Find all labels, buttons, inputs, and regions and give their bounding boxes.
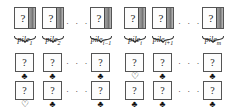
pile-thickness-edge — [166, 8, 173, 28]
card-row-upper-cell-3: ?♣ — [91, 53, 113, 81]
pile-6: ?pilem — [202, 7, 228, 29]
card-row-upper-cell-1: ?♣ — [15, 53, 37, 81]
question-mark-glyph: ? — [92, 82, 109, 99]
pile-row-ellipsis: · · · — [66, 18, 90, 28]
pile-label-base: pile — [91, 35, 103, 44]
question-mark-glyph: ? — [204, 82, 221, 99]
card-row-upper-cell-6: ?♣ — [203, 53, 225, 81]
card-row-lower-cell-3: ?♣ — [91, 81, 113, 109]
club-suit-icon: ♣ — [203, 100, 222, 109]
club-suit-icon: ♣ — [153, 72, 172, 81]
pile-label-base: pile — [128, 35, 140, 44]
card-row-upper-cell-5: ?♣ — [153, 53, 175, 81]
question-mark-glyph: ? — [204, 54, 221, 71]
pile-5: ?pilei+1 — [152, 7, 178, 29]
face-down-card: ? — [203, 53, 222, 72]
question-mark-glyph: ? — [44, 54, 61, 71]
club-suit-icon: ♣ — [203, 72, 222, 81]
question-mark-glyph: ? — [16, 54, 33, 71]
diagram-canvas: ?pile1?pile2?pilei−1?pilei?pilei+1?pilem… — [0, 0, 246, 109]
pile-stack: ? — [90, 7, 112, 29]
face-down-card: ? — [125, 53, 144, 72]
question-mark-glyph: ? — [44, 82, 61, 99]
card-row-lower-ellipsis: · · · — [178, 86, 202, 96]
pile-label-base: pile — [205, 35, 217, 44]
heart-suit-icon: ♡ — [15, 100, 34, 109]
pile-thickness-edge — [138, 8, 145, 28]
face-down-card: ? — [153, 81, 172, 100]
pile-label-base: pile — [153, 35, 165, 44]
card-row-lower-cell-2: ?♣ — [43, 81, 65, 109]
question-mark-glyph: ? — [16, 82, 33, 99]
card-row-upper-cell-4: ?♡ — [125, 53, 147, 81]
pile-thickness-edge — [216, 8, 223, 28]
club-suit-icon: ♣ — [153, 100, 172, 109]
card-row-lower-ellipsis: · · · — [66, 86, 90, 96]
card-row-lower-cell-4: ?♣ — [125, 81, 147, 109]
face-down-card: ? — [125, 81, 144, 100]
face-down-card: ? — [43, 81, 62, 100]
pile-stack: ? — [124, 7, 146, 29]
face-down-card: ? — [91, 53, 110, 72]
pile-stack: ? — [42, 7, 64, 29]
pile-label: pilei−1 — [83, 35, 119, 46]
pile-label-subscript: m — [217, 40, 221, 46]
pile-label-base: pile — [18, 35, 30, 44]
pile-label-subscript: 1 — [30, 40, 33, 46]
club-suit-icon: ♣ — [43, 72, 62, 81]
pile-stack: ? — [152, 7, 174, 29]
face-down-card: ? — [43, 53, 62, 72]
heart-suit-icon: ♡ — [125, 72, 144, 81]
pile-label-base: pile — [46, 35, 58, 44]
face-down-card: ? — [91, 81, 110, 100]
pile-label: pilem — [195, 35, 231, 46]
club-suit-icon: ♣ — [91, 72, 110, 81]
pile-label-subscript: i−1 — [103, 40, 112, 46]
card-row-lower-cell-6: ?♣ — [203, 81, 225, 109]
pile-thickness-edge — [104, 8, 111, 28]
pile-label: pile2 — [35, 35, 71, 46]
card-row-lower-cell-5: ?♣ — [153, 81, 175, 109]
pile-2: ?pile2 — [42, 7, 68, 29]
card-row-upper-cell-2: ?♣ — [43, 53, 65, 81]
pile-1: ?pile1 — [14, 7, 40, 29]
pile-label-subscript: i+1 — [165, 40, 174, 46]
question-mark-glyph: ? — [92, 54, 109, 71]
face-down-card: ? — [153, 53, 172, 72]
card-row-lower-cell-1: ?♡ — [15, 81, 37, 109]
club-suit-icon: ♣ — [15, 72, 34, 81]
question-mark-glyph: ? — [154, 54, 171, 71]
face-down-card: ? — [15, 53, 34, 72]
face-down-card: ? — [15, 81, 34, 100]
pile-4: ?pilei — [124, 7, 150, 29]
card-row-upper-ellipsis: · · · — [178, 58, 202, 68]
pile-label-subscript: 2 — [58, 40, 61, 46]
pile-thickness-edge — [56, 8, 63, 28]
pile-stack: ? — [14, 7, 36, 29]
question-mark-glyph: ? — [126, 54, 143, 71]
card-row-upper-ellipsis: · · · — [66, 58, 90, 68]
face-down-card: ? — [203, 81, 222, 100]
question-mark-glyph: ? — [126, 82, 143, 99]
pile-label-subscript: i — [140, 40, 142, 46]
pile-stack: ? — [202, 7, 224, 29]
club-suit-icon: ♣ — [125, 100, 144, 109]
question-mark-glyph: ? — [154, 82, 171, 99]
club-suit-icon: ♣ — [91, 100, 110, 109]
pile-row-ellipsis: · · · — [178, 18, 202, 28]
pile-thickness-edge — [28, 8, 35, 28]
pile-3: ?pilei−1 — [90, 7, 116, 29]
pile-label: pilei+1 — [145, 35, 181, 46]
club-suit-icon: ♣ — [43, 100, 62, 109]
